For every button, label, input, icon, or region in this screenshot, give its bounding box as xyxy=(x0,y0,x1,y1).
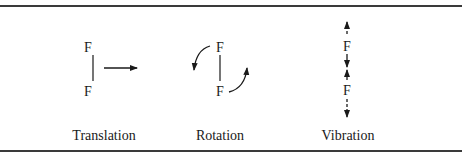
rotation-top-atom: F xyxy=(216,40,224,55)
translation-caption: Translation xyxy=(72,128,135,144)
translation-bottom-atom: F xyxy=(84,84,92,99)
translation-top-atom: F xyxy=(84,40,92,55)
vibration-caption: Vibration xyxy=(322,128,375,144)
rotation-panel: F F xyxy=(194,40,247,99)
rotation-caption: Rotation xyxy=(196,128,244,144)
vibration-panel: F F xyxy=(343,22,351,117)
bottom-rule xyxy=(0,150,462,152)
rotation-bottom-atom: F xyxy=(216,84,224,99)
translation-panel: F F xyxy=(84,40,137,99)
vibration-top-atom: F xyxy=(343,39,351,54)
vibration-bottom-atom: F xyxy=(343,83,351,98)
rotation-arrow-cw-icon xyxy=(229,68,247,92)
rotation-arrow-ccw-icon xyxy=(194,46,210,70)
